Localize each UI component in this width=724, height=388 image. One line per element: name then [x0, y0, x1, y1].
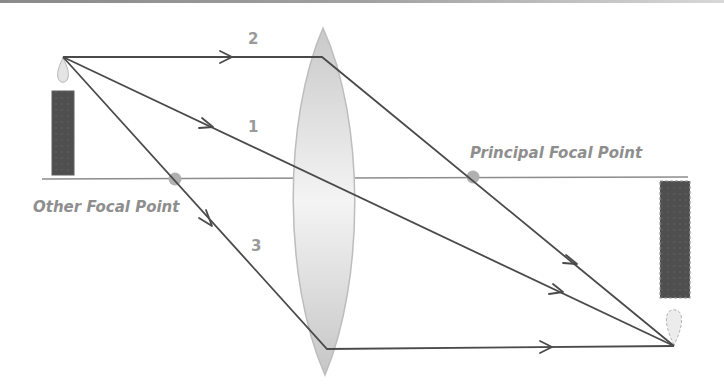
ray-1-arrow-2: [549, 284, 563, 294]
ray-2-label: 2: [248, 30, 258, 48]
image-flame: [666, 310, 681, 345]
ray-3-label: 3: [251, 237, 261, 255]
other-focal-point: [169, 173, 182, 186]
ray-3-arrow-1: [199, 210, 212, 226]
other-focal-point-label: Other Focal Point: [33, 198, 180, 216]
image-candle: [660, 181, 690, 345]
object-candle: [52, 58, 74, 175]
ray-1-label: 1: [248, 118, 258, 136]
principal-focal-point-label: Principal Focal Point: [470, 144, 643, 162]
ray-diagram: 2 1 3 Principal Focal Point Other Focal …: [0, 0, 724, 388]
optical-axis: [42, 177, 688, 179]
